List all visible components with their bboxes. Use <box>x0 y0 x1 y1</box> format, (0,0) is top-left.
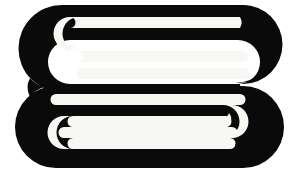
bottom-lobe-channel-inner <box>59 127 238 138</box>
bottom-lobe-lower-lane <box>68 138 236 149</box>
logo-canvas: Abstract folded-ribbon S mark Solid blac… <box>0 0 297 178</box>
bottom-lobe-inner-lane <box>68 116 232 127</box>
top-lobe-lower-lane <box>77 68 250 79</box>
folded-ribbon-s-icon: Black logo of two stacked folded loops f… <box>0 0 297 178</box>
top-lobe-channel-inner <box>78 51 249 62</box>
top-lobe-channel-outer <box>70 17 241 28</box>
bottom-lobe-channel-outer <box>51 94 246 105</box>
